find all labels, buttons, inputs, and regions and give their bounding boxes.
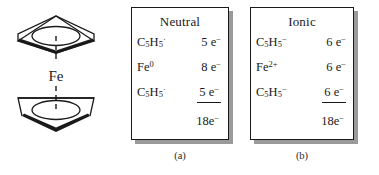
electron-total: 18e− [196, 113, 221, 129]
count-rows-neutral: C5H5· 5 e− Fe0 8 e− C5H5· 5 e− [132, 34, 228, 109]
electron-count-last: 5 e− [197, 84, 221, 103]
table-row: Fe0 8 e− [137, 59, 221, 84]
box-title-neutral: Neutral [132, 8, 228, 28]
electron-total: 18e− [321, 113, 346, 129]
electron-count-last: 6 e− [322, 84, 346, 103]
table-row: C5H5− 6 e− [256, 84, 346, 109]
electron-count-box-ionic: Ionic C5H5− 6 e− Fe2+ 6 e− C5H5− 6 e− 18… [250, 7, 354, 140]
caption-a: (a) [131, 150, 229, 161]
count-rows-ionic: C5H5− 6 e− Fe2+ 6 e− C5H5− 6 e− [251, 34, 353, 109]
bottom-cyclopentadienyl-ring [18, 98, 94, 132]
table-row: Fe2+ 6 e− [256, 59, 346, 84]
aromatic-circle-bottom [32, 101, 80, 120]
electron-count: 6 e− [326, 59, 346, 76]
ferrocene-svg: Fe [6, 8, 118, 138]
electron-count: 6 e− [326, 34, 346, 51]
electron-count-box-neutral: Neutral C5H5· 5 e− Fe0 8 e− C5H5· 5 e− 1… [131, 7, 229, 140]
total-row-ionic: 18e− [251, 113, 353, 129]
ferrocene-structure-diagram: Fe [6, 8, 118, 138]
box-title-ionic: Ionic [251, 8, 353, 28]
species-label: Fe0 [137, 59, 154, 75]
table-row: C5H5· 5 e− [137, 34, 221, 59]
species-label: C5H5· [137, 84, 166, 100]
total-row-neutral: 18e− [132, 113, 228, 129]
caption-b: (b) [250, 150, 354, 161]
table-row: C5H5· 5 e− [137, 84, 221, 109]
species-label: C5H5− [256, 84, 287, 100]
electron-count: 5 e− [201, 34, 221, 51]
species-label: C5H5− [256, 34, 287, 50]
species-label: Fe2+ [256, 59, 278, 75]
table-row: C5H5− 6 e− [256, 34, 346, 59]
species-label: C5H5· [137, 34, 166, 50]
fe-metal-label: Fe [49, 68, 64, 84]
electron-count: 8 e− [201, 59, 221, 76]
